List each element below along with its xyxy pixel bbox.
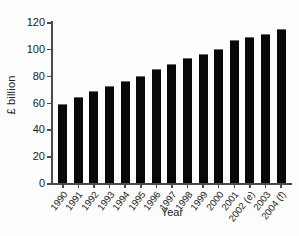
bar-slot <box>164 22 180 183</box>
bar-slot <box>211 22 227 183</box>
y-axis-tick-label: 40 <box>33 123 45 135</box>
bar <box>152 69 161 183</box>
bar <box>167 64 176 183</box>
bar <box>105 86 114 183</box>
bar <box>183 58 192 183</box>
bar-chart-figure: £ billion 020406080100120 19901991199219… <box>0 0 299 236</box>
bar <box>214 49 223 183</box>
bar <box>245 37 254 183</box>
plot-area: 020406080100120 <box>52 22 292 183</box>
bar-slot <box>117 22 133 183</box>
bar-slot <box>258 22 274 183</box>
bar-slot <box>149 22 165 183</box>
bar-slot <box>180 22 196 183</box>
bar <box>58 104 67 183</box>
bar <box>230 40 239 183</box>
y-axis-title-label: £ billion <box>5 75 17 114</box>
y-axis-tick-label: 0 <box>39 177 45 189</box>
x-axis-title: Year <box>52 206 292 218</box>
bar <box>199 54 208 183</box>
y-axis-tick-label: 60 <box>33 97 45 109</box>
bar <box>277 29 286 183</box>
y-axis-title: £ billion <box>0 0 22 190</box>
y-axis-tick-label: 80 <box>33 70 45 82</box>
bar-slot <box>273 22 289 183</box>
bar-slot <box>102 22 118 183</box>
y-axis-tick-label: 100 <box>27 43 45 55</box>
bar-series <box>52 22 292 183</box>
y-axis-tick-label: 120 <box>27 16 45 28</box>
y-axis-tick-label: 20 <box>33 150 45 162</box>
bar-slot <box>133 22 149 183</box>
bar-slot <box>55 22 71 183</box>
bar <box>74 97 83 183</box>
bar <box>136 76 145 183</box>
bar <box>89 91 98 183</box>
bar-slot <box>242 22 258 183</box>
bar-slot <box>86 22 102 183</box>
bar-slot <box>71 22 87 183</box>
bar-slot <box>227 22 243 183</box>
bar-slot <box>195 22 211 183</box>
bar <box>121 81 130 183</box>
